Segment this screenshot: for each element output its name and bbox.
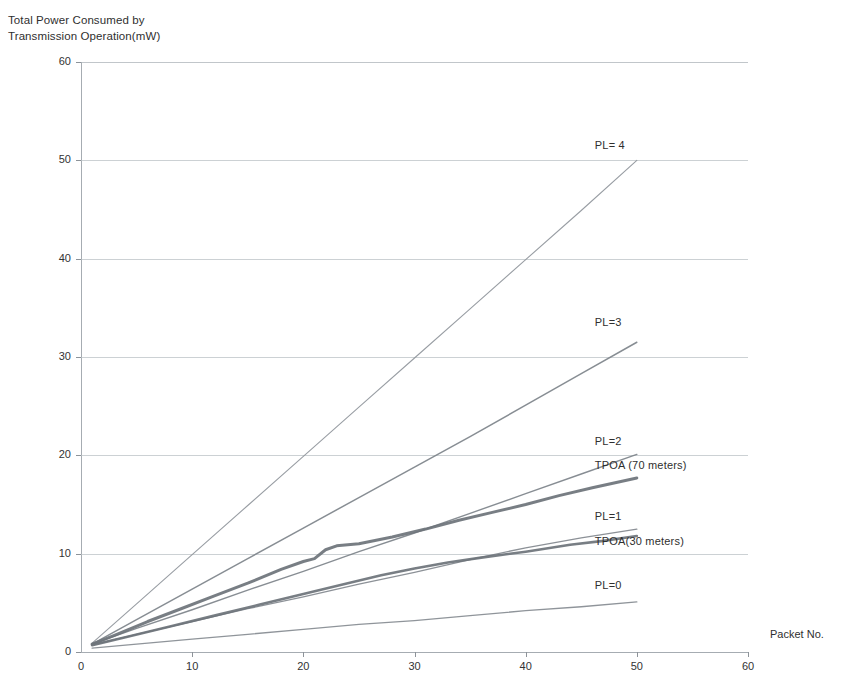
x-tick-mark-30 bbox=[415, 652, 416, 657]
series-label-4: PL=1 bbox=[595, 510, 622, 522]
x-axis-title: Packet No. bbox=[770, 628, 824, 640]
gridline-y-20 bbox=[81, 455, 748, 456]
x-tick-mark-40 bbox=[526, 652, 527, 657]
series-label-3: TPOA (70 meters) bbox=[595, 459, 687, 471]
y-tick-label-10: 10 bbox=[37, 547, 71, 559]
series-label-5: TPOA(30 meters) bbox=[595, 535, 684, 547]
gridline-y-30 bbox=[81, 357, 748, 358]
y-tick-label-60: 60 bbox=[37, 55, 71, 67]
x-tick-label-50: 50 bbox=[617, 660, 657, 672]
x-tick-mark-10 bbox=[192, 652, 193, 657]
gridline-y-10 bbox=[81, 554, 748, 555]
y-tick-mark-10 bbox=[76, 554, 81, 555]
x-tick-label-60: 60 bbox=[728, 660, 768, 672]
chart-figure: Total Power Consumed by Transmission Ope… bbox=[0, 0, 856, 698]
plot-area bbox=[81, 62, 748, 652]
series-label-1: PL=3 bbox=[595, 316, 622, 328]
y-tick-mark-40 bbox=[76, 259, 81, 260]
y-axis-title: Total Power Consumed by Transmission Ope… bbox=[8, 12, 308, 44]
y-tick-mark-0 bbox=[76, 652, 81, 653]
x-tick-label-30: 30 bbox=[395, 660, 435, 672]
y-tick-label-0: 0 bbox=[37, 645, 71, 657]
gridline-y-50 bbox=[81, 160, 748, 161]
x-tick-label-40: 40 bbox=[506, 660, 546, 672]
y-tick-mark-60 bbox=[76, 62, 81, 63]
y-tick-mark-20 bbox=[76, 455, 81, 456]
x-tick-mark-50 bbox=[637, 652, 638, 657]
series-label-2: PL=2 bbox=[595, 435, 622, 447]
y-tick-label-50: 50 bbox=[37, 153, 71, 165]
y-tick-mark-50 bbox=[76, 160, 81, 161]
x-tick-mark-60 bbox=[748, 652, 749, 657]
x-tick-label-10: 10 bbox=[172, 660, 212, 672]
gridline-y-40 bbox=[81, 259, 748, 260]
y-tick-label-20: 20 bbox=[37, 448, 71, 460]
gridline-y-60 bbox=[81, 62, 748, 63]
y-tick-label-30: 30 bbox=[37, 350, 71, 362]
series-label-0: PL= 4 bbox=[595, 139, 625, 151]
x-tick-label-20: 20 bbox=[283, 660, 323, 672]
y-tick-mark-30 bbox=[76, 357, 81, 358]
x-tick-label-0: 0 bbox=[61, 660, 101, 672]
y-tick-label-40: 40 bbox=[37, 252, 71, 264]
series-label-6: PL=0 bbox=[595, 579, 622, 591]
x-tick-mark-20 bbox=[303, 652, 304, 657]
